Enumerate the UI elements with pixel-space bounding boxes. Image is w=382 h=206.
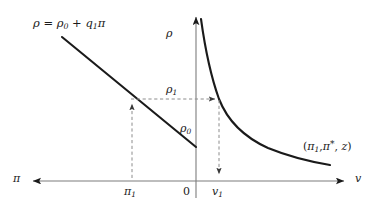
figure-canvas: ρ = ρ0 + q1π ρ v π ρ1 ρ0 0 π1 v1 (π1,π*,… [0,0,382,206]
rho-axis-label: ρ [166,28,172,39]
pi1-tick-label: π1 [124,186,136,199]
pi-axis-label: π [13,173,20,184]
hyperbola-label: (π1,π*, z) [303,140,352,153]
rho1-label: ρ1 [166,84,177,97]
origin-label: 0 [183,186,190,197]
v1-tick-label: v1 [212,186,223,199]
rho0-label: ρ0 [180,123,191,136]
equation-label: ρ = ρ0 + q1π [33,18,105,31]
v-axis-label: v [355,173,361,184]
